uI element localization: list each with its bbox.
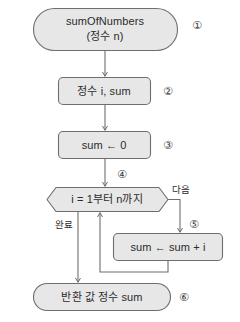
shape-init	[59, 132, 151, 159]
flowchart-canvas: sumOfNumbers (정수 n) ① 정수 i, sum ② sum ← …	[0, 0, 240, 322]
edge-loop-accumulate	[168, 200, 180, 232]
shape-return	[34, 284, 171, 311]
shape-declare	[59, 78, 151, 105]
shape-accumulate	[114, 234, 223, 261]
flowchart-graphics	[0, 0, 240, 322]
shape-loop	[47, 188, 168, 212]
shape-start	[34, 9, 178, 51]
